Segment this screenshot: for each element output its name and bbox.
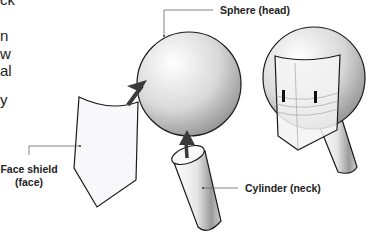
face-shield-label-line2: (face) xyxy=(0,176,58,189)
assembled-head-figure xyxy=(263,27,365,173)
head-construction-diagram xyxy=(0,0,373,237)
cylinder-neck-shape xyxy=(169,142,221,231)
face-shield-shape xyxy=(74,97,138,207)
sphere-head-label: Sphere (head) xyxy=(220,4,290,16)
eye-mark xyxy=(314,91,317,103)
cylinder-neck-label: Cylinder (neck) xyxy=(245,182,321,194)
sphere-head-shape xyxy=(137,32,241,136)
face-shield-label: Face shield (face) xyxy=(0,163,58,188)
eye-mark xyxy=(282,90,285,102)
face-shield-label-line1: Face shield xyxy=(0,163,58,176)
